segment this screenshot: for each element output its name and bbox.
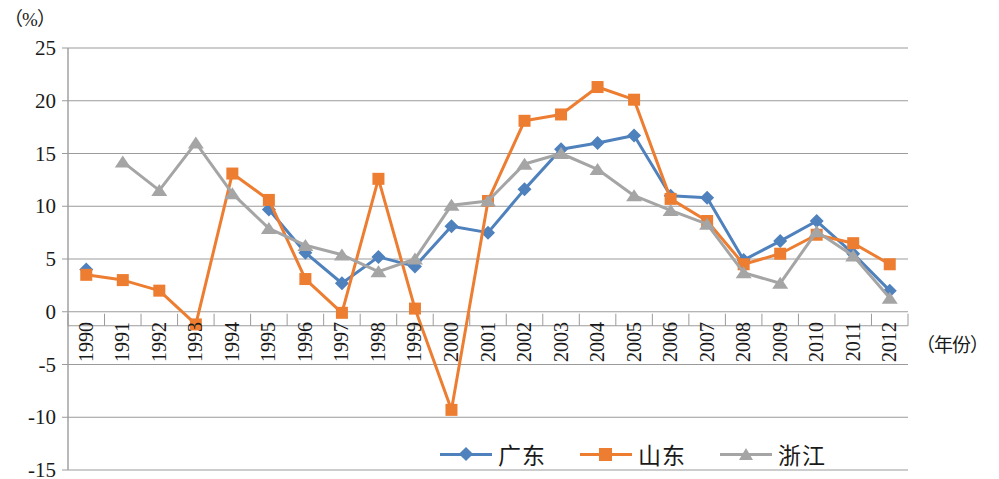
data-point-marker <box>188 137 204 149</box>
line-chart: （%） （年份） 2520151050-5-10-15 199019911992… <box>0 0 999 479</box>
data-point-marker <box>700 191 714 205</box>
x-axis-tick-label: 2005 <box>623 322 646 362</box>
data-point-marker <box>774 248 786 260</box>
y-axis-tick-label: 0 <box>4 299 56 324</box>
x-axis-title: （年份） <box>916 330 988 357</box>
y-axis-tick-label: -15 <box>4 458 56 479</box>
data-point-marker <box>409 303 421 315</box>
data-point-marker <box>590 163 606 175</box>
x-axis-tick-label: 2008 <box>732 322 755 362</box>
x-axis-tick-label: 1990 <box>75 322 98 362</box>
x-axis-tick-label: 2006 <box>659 322 682 362</box>
x-axis-tick-label: 2007 <box>696 322 719 362</box>
legend-marker-triangle-icon <box>739 448 753 460</box>
y-axis-tick-label: 25 <box>4 36 56 61</box>
data-point-marker <box>627 129 641 143</box>
y-axis-tick-label: 20 <box>4 88 56 113</box>
x-axis-tick-label: 1991 <box>111 322 134 362</box>
x-axis-tick-label: 1996 <box>294 322 317 362</box>
x-axis-tick-label: 1994 <box>221 322 244 362</box>
x-axis-tick-label: 1999 <box>403 322 426 362</box>
x-axis-tick-label: 1992 <box>148 322 171 362</box>
legend-label: 山东 <box>638 437 686 471</box>
y-axis-tick-label: 15 <box>4 141 56 166</box>
x-axis-tick-label: 2012 <box>878 322 901 362</box>
data-point-marker <box>445 404 457 416</box>
data-point-marker <box>592 81 604 93</box>
series-line <box>123 143 890 298</box>
legend-key-icon <box>440 445 492 463</box>
legend-item-浙江[interactable]: 浙江 <box>720 437 826 471</box>
y-axis-tick-label: 10 <box>4 194 56 219</box>
y-axis-unit-label: （%） <box>4 4 55 31</box>
legend-label: 浙江 <box>778 437 826 471</box>
data-point-marker <box>519 115 531 127</box>
x-axis-tick-label: 1997 <box>330 322 353 362</box>
legend-item-广东[interactable]: 广东 <box>440 437 546 471</box>
x-axis-tick-label: 2009 <box>769 322 792 362</box>
data-point-marker <box>372 173 384 185</box>
data-point-marker <box>115 156 131 168</box>
data-point-marker <box>226 168 238 180</box>
series-line <box>269 136 890 291</box>
legend-label: 广东 <box>498 437 546 471</box>
legend-marker-diamond-icon <box>459 447 473 461</box>
data-point-marker <box>628 94 640 106</box>
data-point-marker <box>263 194 275 206</box>
x-axis-tick-label: 2011 <box>842 322 865 361</box>
x-axis-tick-label: 1998 <box>367 322 390 362</box>
chart-legend: 广东山东浙江 <box>440 437 826 471</box>
data-point-marker <box>299 273 311 285</box>
x-axis-tick-label: 2002 <box>513 322 536 362</box>
x-axis-tick-label: 2001 <box>477 322 500 362</box>
data-point-marker <box>591 136 605 150</box>
legend-key-icon <box>580 445 632 463</box>
data-point-marker <box>665 193 677 205</box>
series-山东 <box>80 81 895 416</box>
data-point-marker <box>153 285 165 297</box>
x-axis-tick-label: 1995 <box>257 322 280 362</box>
legend-key-icon <box>720 445 772 463</box>
legend-marker-square-icon <box>599 448 612 461</box>
x-axis-tick-label: 2004 <box>586 322 609 362</box>
y-axis-tick-label: -10 <box>4 405 56 430</box>
x-axis-tick-label: 2010 <box>805 322 828 362</box>
data-point-marker <box>336 307 348 319</box>
data-point-marker <box>80 269 92 281</box>
data-point-marker <box>117 274 129 286</box>
y-axis-tick-label: -5 <box>4 352 56 377</box>
x-axis-tick-label: 2000 <box>440 322 463 362</box>
data-point-marker <box>884 258 896 270</box>
data-point-marker <box>773 234 787 248</box>
data-point-marker <box>555 108 567 120</box>
y-axis-tick-label: 5 <box>4 247 56 272</box>
data-point-marker <box>847 237 859 249</box>
x-axis-tick-label: 2003 <box>550 322 573 362</box>
plot-area <box>0 0 999 479</box>
x-axis-tick-label: 1993 <box>184 322 207 362</box>
legend-item-山东[interactable]: 山东 <box>580 437 686 471</box>
